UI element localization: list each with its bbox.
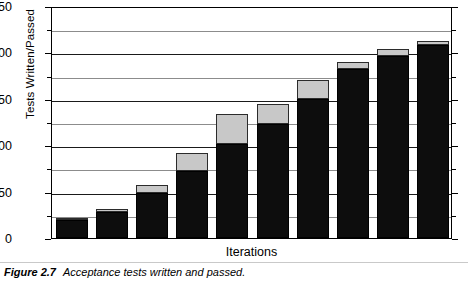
- y-axis-tick-mark-right-minor: [452, 123, 456, 124]
- bar-group[interactable]: [257, 7, 289, 238]
- bar-segment-passed[interactable]: [56, 220, 88, 238]
- bar-segment-passed[interactable]: [297, 99, 329, 238]
- bar-segment-written[interactable]: [377, 49, 409, 56]
- bar-group[interactable]: [56, 7, 88, 238]
- y-axis-tick-mark-right: [452, 53, 458, 54]
- figure-caption-text: Acceptance tests written and passed.: [63, 266, 245, 278]
- x-axis-title: Iterations: [51, 245, 452, 259]
- y-axis-tick-mark: [45, 239, 51, 240]
- y-axis-tick-mark-right: [452, 146, 458, 147]
- bar-segment-passed[interactable]: [257, 124, 289, 238]
- bar-segment-written[interactable]: [257, 104, 289, 123]
- bar-segment-passed[interactable]: [377, 56, 409, 238]
- y-axis-tick-mark-right: [452, 193, 458, 194]
- y-axis-tick-mark-right-minor: [452, 216, 456, 217]
- bar-group[interactable]: [417, 7, 449, 238]
- y-axis-title: Tests Written/Passed: [24, 0, 36, 154]
- bar-group[interactable]: [337, 7, 369, 238]
- y-axis-tick-label: 100: [0, 140, 12, 153]
- bar-group[interactable]: [176, 7, 208, 238]
- y-axis-tick-label: 250: [0, 1, 12, 14]
- figure-caption-label: Figure 2.7: [4, 266, 56, 278]
- y-axis-tick-label: 50: [0, 187, 12, 200]
- bar-group[interactable]: [377, 7, 409, 238]
- bar-segment-written[interactable]: [216, 114, 248, 145]
- bar-segment-passed[interactable]: [337, 69, 369, 238]
- y-axis-tick-mark-right-minor: [452, 169, 456, 170]
- figure-container: Tests Written/Passed 050100150200250 Ite…: [0, 0, 468, 284]
- bar-segment-passed[interactable]: [96, 212, 128, 238]
- bar-group[interactable]: [297, 7, 329, 238]
- bar-segment-written[interactable]: [176, 153, 208, 172]
- bar-group[interactable]: [96, 7, 128, 238]
- plot-area: [51, 7, 452, 239]
- bar-segment-passed[interactable]: [136, 193, 168, 238]
- y-axis-tick-mark-right: [452, 100, 458, 101]
- y-axis-tick-mark-right-minor: [452, 30, 456, 31]
- figure-caption: Figure 2.7Acceptance tests written and p…: [4, 266, 245, 278]
- y-axis-tick-label: 200: [0, 47, 12, 60]
- bar-segment-passed[interactable]: [216, 144, 248, 238]
- y-axis-tick-label: 0: [0, 233, 12, 246]
- bar-segment-written[interactable]: [297, 80, 329, 99]
- caption-divider: [0, 262, 468, 263]
- bar-segment-written[interactable]: [337, 62, 369, 69]
- bar-segment-passed[interactable]: [417, 45, 449, 238]
- bar-group[interactable]: [216, 7, 248, 238]
- y-axis-tick-mark-right: [452, 7, 458, 8]
- bar-segment-written[interactable]: [136, 185, 168, 193]
- y-axis-tick-label: 150: [0, 94, 12, 107]
- bar-segment-passed[interactable]: [176, 171, 208, 238]
- y-axis-tick-mark-right: [452, 239, 458, 240]
- bar-group[interactable]: [136, 7, 168, 238]
- y-axis-tick-mark-right-minor: [452, 77, 456, 78]
